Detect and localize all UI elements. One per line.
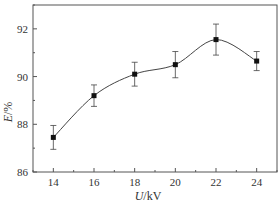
x-tick-label: 24 (251, 176, 263, 188)
data-point-marker (51, 135, 56, 140)
x-tick-label: 20 (170, 176, 182, 188)
y-tick-label: 86 (17, 166, 29, 178)
x-axis-label: U/kV (135, 189, 162, 203)
data-point-marker (214, 37, 219, 42)
y-tick-label: 92 (17, 23, 28, 35)
data-point-marker (173, 62, 178, 67)
axes (33, 5, 277, 172)
data-markers (51, 37, 259, 140)
data-line (53, 40, 256, 138)
x-tick-label: 22 (211, 176, 222, 188)
y-tick-label: 90 (17, 71, 29, 83)
x-tick-label: 14 (48, 176, 60, 188)
x-tick-label: 16 (89, 176, 101, 188)
data-point-marker (132, 72, 137, 77)
ticks: 14161820222486889092 (17, 5, 277, 188)
y-axis-label: E/% (1, 102, 15, 124)
chart: 14161820222486889092 U/kV E/% (0, 0, 280, 205)
data-point-marker (254, 59, 259, 64)
y-tick-label: 88 (17, 118, 29, 130)
x-tick-label: 18 (129, 176, 141, 188)
data-point-marker (92, 93, 97, 98)
